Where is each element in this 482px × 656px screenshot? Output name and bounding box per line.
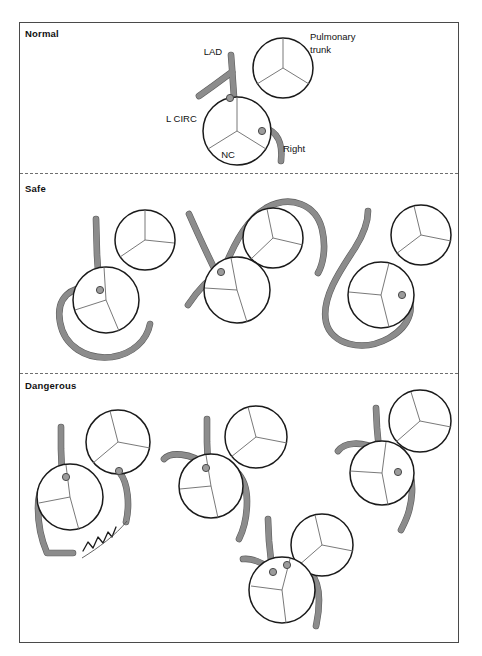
- section-label-safe: Safe: [25, 183, 46, 194]
- figure-frame: [19, 22, 459, 643]
- section-label-dangerous: Dangerous: [25, 380, 76, 391]
- section-divider-safe-dangerous: [20, 373, 458, 374]
- section-divider-normal-safe: [20, 173, 458, 174]
- section-label-normal: Normal: [25, 28, 59, 39]
